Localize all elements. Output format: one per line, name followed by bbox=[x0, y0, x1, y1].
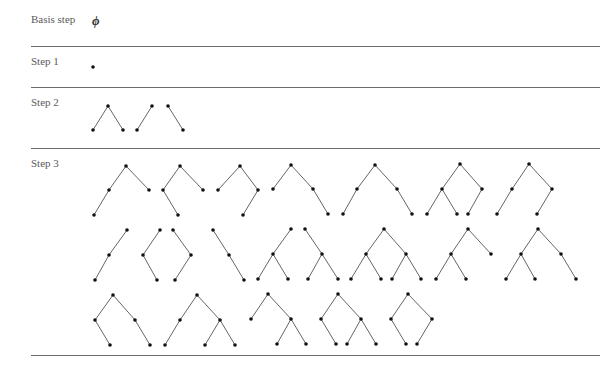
tree-edge bbox=[291, 165, 313, 189]
tree-node bbox=[326, 212, 330, 216]
tree-node bbox=[319, 317, 323, 321]
tree-node bbox=[410, 212, 414, 216]
tree-edge bbox=[305, 229, 322, 254]
tree-step-3 bbox=[93, 293, 152, 347]
tree-edge bbox=[460, 164, 482, 189]
tree-edge bbox=[143, 230, 160, 255]
tree-edge bbox=[343, 189, 357, 214]
tree-node bbox=[345, 342, 349, 346]
tree-node bbox=[406, 292, 410, 296]
tree-node bbox=[178, 164, 182, 168]
tree-step-3 bbox=[249, 292, 308, 346]
tree-edge bbox=[213, 230, 229, 255]
tree-node bbox=[141, 253, 145, 257]
tree-node bbox=[559, 252, 563, 256]
tree-node bbox=[334, 342, 338, 346]
tree-edge bbox=[251, 294, 268, 319]
tree-edge bbox=[163, 166, 180, 190]
tree-node bbox=[464, 277, 468, 281]
tree-edge bbox=[163, 190, 178, 215]
tree-node bbox=[574, 277, 578, 281]
tree-edge bbox=[366, 229, 384, 254]
tree-node bbox=[249, 317, 253, 321]
tree-edge bbox=[322, 254, 338, 279]
tree-node bbox=[91, 128, 95, 132]
tree-node bbox=[466, 227, 470, 231]
tree-node bbox=[336, 292, 340, 296]
tree-node bbox=[121, 128, 125, 132]
tree-edge bbox=[180, 166, 203, 190]
tree-step-3 bbox=[92, 164, 151, 217]
tree-node bbox=[150, 104, 154, 108]
tree-step-3 bbox=[271, 163, 330, 216]
tree-node bbox=[404, 342, 408, 346]
tree-node bbox=[93, 278, 97, 282]
tree-edge bbox=[351, 254, 366, 279]
tree-edge bbox=[468, 229, 491, 254]
tree-edge bbox=[375, 165, 397, 189]
tree-edge bbox=[197, 295, 220, 320]
tree-node bbox=[163, 343, 167, 347]
tree-edge bbox=[220, 320, 235, 345]
tree-edge bbox=[338, 294, 361, 319]
tree-node bbox=[108, 343, 112, 347]
tree-node bbox=[241, 213, 245, 217]
binary-trees-diagram bbox=[0, 0, 614, 368]
tree-node bbox=[489, 252, 493, 256]
tree-node bbox=[161, 188, 165, 192]
tree-node bbox=[536, 227, 540, 231]
tree-edge bbox=[406, 254, 421, 279]
tree-edge bbox=[538, 229, 561, 254]
tree-node bbox=[449, 252, 453, 256]
tree-node bbox=[304, 342, 308, 346]
tree-node bbox=[271, 252, 275, 256]
tree-edge bbox=[321, 319, 336, 344]
tree-edge bbox=[268, 294, 291, 319]
tree-node bbox=[415, 342, 419, 346]
tree-node bbox=[382, 227, 386, 231]
tree-node bbox=[111, 293, 115, 297]
tree-node bbox=[533, 277, 537, 281]
tree-node bbox=[171, 228, 175, 232]
tree-edge bbox=[451, 254, 466, 279]
tree-edge bbox=[94, 190, 109, 215]
tree-node bbox=[256, 277, 260, 281]
tree-step-3 bbox=[93, 228, 129, 282]
tree-node bbox=[271, 187, 275, 191]
tree-edge bbox=[205, 320, 220, 345]
tree-node bbox=[135, 128, 139, 132]
tree-node bbox=[430, 317, 434, 321]
tree-node bbox=[275, 342, 279, 346]
tree-edge bbox=[468, 189, 482, 214]
tree-step-3 bbox=[495, 162, 554, 216]
tree-step-3 bbox=[211, 228, 246, 282]
tree-edge bbox=[384, 229, 406, 254]
tree-edge bbox=[417, 319, 432, 344]
tree-node bbox=[173, 278, 177, 282]
tree-node bbox=[510, 187, 514, 191]
tree-edge bbox=[137, 106, 152, 130]
tree-node bbox=[419, 277, 423, 281]
tree-edge bbox=[240, 166, 258, 190]
tree-step-3 bbox=[256, 227, 293, 281]
tree-node bbox=[455, 212, 459, 216]
tree-edge bbox=[126, 166, 149, 190]
tree-node bbox=[519, 252, 523, 256]
tree-edge bbox=[109, 166, 126, 190]
tree-node bbox=[379, 277, 383, 281]
tree-node bbox=[458, 162, 462, 166]
tree-node bbox=[148, 343, 152, 347]
tree-edge bbox=[168, 106, 183, 130]
tree-node bbox=[336, 277, 340, 281]
tree-edge bbox=[391, 294, 408, 319]
tree-node bbox=[289, 227, 293, 231]
tree-node bbox=[364, 252, 368, 256]
tree-step-3 bbox=[341, 163, 414, 216]
tree-step-3 bbox=[389, 292, 434, 346]
tree-node bbox=[306, 277, 310, 281]
tree-node bbox=[389, 317, 393, 321]
tree-node bbox=[535, 212, 539, 216]
tree-edge bbox=[109, 230, 127, 255]
tree-node bbox=[92, 213, 96, 217]
tree-edge bbox=[113, 295, 135, 320]
